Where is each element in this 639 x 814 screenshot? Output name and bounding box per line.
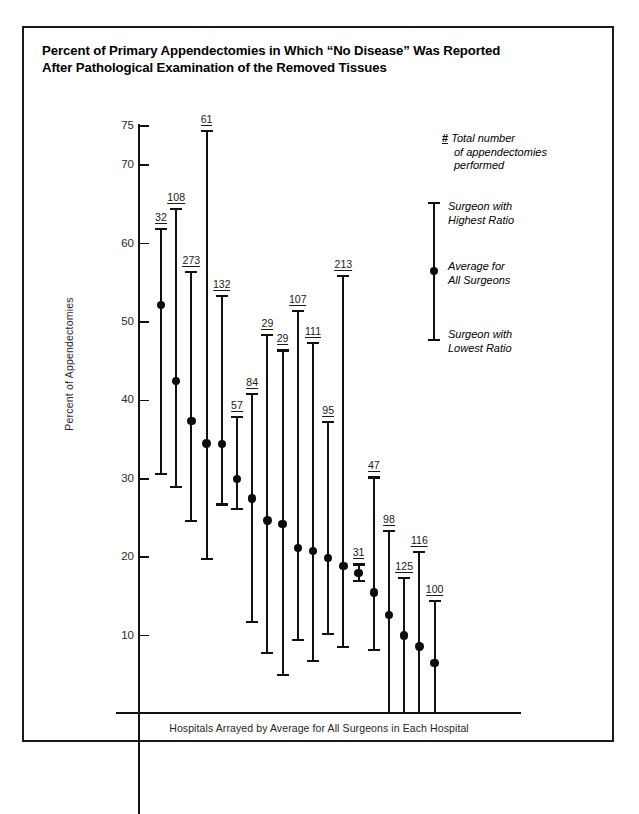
range-bar-low-cap bbox=[185, 520, 197, 522]
bar-count-label: 116 bbox=[411, 535, 428, 547]
range-bar[interactable]: 100 bbox=[428, 584, 442, 718]
range-bar-stem bbox=[403, 577, 405, 714]
range-bar-stem bbox=[373, 476, 375, 651]
legend-lowest-line-1: Surgeon with bbox=[448, 328, 512, 340]
y-axis-tick-label-text: 30 bbox=[108, 472, 134, 484]
y-axis-tick bbox=[140, 400, 149, 402]
range-bar[interactable]: 116 bbox=[412, 535, 426, 718]
range-bar-high-cap bbox=[246, 393, 258, 395]
range-bar[interactable]: 108 bbox=[169, 192, 183, 492]
bar-count-label: 125 bbox=[395, 561, 413, 573]
legend-average-line-1: Average for bbox=[448, 260, 505, 272]
range-bar-stem bbox=[282, 349, 284, 675]
average-dot bbox=[339, 562, 347, 570]
bar-count-label: 213 bbox=[335, 259, 353, 271]
range-bar[interactable]: 47 bbox=[367, 460, 381, 655]
average-dot bbox=[233, 475, 241, 483]
y-axis-line bbox=[138, 124, 140, 814]
range-bar-low-cap bbox=[170, 486, 182, 488]
range-bar-stem bbox=[327, 421, 329, 635]
bar-count-label: 95 bbox=[322, 405, 334, 417]
range-bar[interactable]: 84 bbox=[245, 377, 259, 627]
range-bar-low-cap bbox=[353, 580, 365, 582]
range-bar[interactable]: 32 bbox=[154, 212, 168, 479]
legend-average-dot bbox=[430, 267, 438, 275]
range-bar[interactable]: 61 bbox=[200, 114, 214, 564]
average-dot bbox=[278, 520, 286, 528]
average-dot bbox=[187, 417, 195, 425]
range-bar-high-cap bbox=[353, 563, 365, 565]
average-dot bbox=[172, 377, 180, 385]
range-bar-high-cap bbox=[292, 310, 304, 312]
range-bar-high-cap bbox=[413, 551, 425, 553]
range-bar[interactable]: 57 bbox=[230, 400, 244, 514]
range-bar[interactable]: 29 bbox=[276, 333, 290, 679]
average-dot bbox=[415, 642, 423, 650]
range-bar-low-cap bbox=[216, 503, 228, 505]
range-bar-high-cap bbox=[170, 208, 182, 210]
range-bar-stem bbox=[175, 208, 177, 488]
range-bar[interactable]: 111 bbox=[306, 326, 320, 667]
range-bar-low-cap bbox=[307, 660, 319, 662]
bar-count-label: 47 bbox=[368, 460, 380, 472]
range-bar-high-cap bbox=[368, 476, 380, 478]
bar-count-label: 31 bbox=[353, 547, 365, 559]
y-axis-tick bbox=[140, 243, 149, 245]
bar-count-label: 132 bbox=[213, 279, 231, 291]
range-bar[interactable]: 98 bbox=[382, 514, 396, 718]
y-axis-tick-label: 70 bbox=[108, 158, 134, 170]
range-bar-low-cap bbox=[277, 674, 289, 676]
average-dot bbox=[400, 631, 408, 639]
legend-highest-label: Surgeon with Highest Ratio bbox=[448, 200, 598, 227]
range-bar-low-cap bbox=[322, 633, 334, 635]
average-dot bbox=[430, 659, 438, 667]
range-bar[interactable]: 132 bbox=[215, 279, 229, 510]
bar-count-label: 107 bbox=[289, 294, 307, 306]
range-bar-low-cap bbox=[155, 473, 167, 475]
range-bar-low-cap bbox=[201, 558, 213, 560]
range-bar[interactable]: 125 bbox=[397, 561, 411, 718]
range-bar-stem bbox=[160, 228, 162, 475]
hash-icon: # bbox=[442, 133, 448, 144]
average-dot bbox=[157, 301, 165, 309]
range-bar-high-cap bbox=[155, 228, 167, 230]
bar-count-label: 98 bbox=[383, 514, 395, 526]
range-bar-low-cap bbox=[337, 646, 349, 648]
y-axis-tick bbox=[140, 164, 149, 166]
y-axis-tick-label-text: 20 bbox=[108, 550, 134, 562]
legend-highest-line-1: Surgeon with bbox=[448, 200, 512, 212]
y-axis-tick-label-text: 10 bbox=[108, 629, 134, 641]
y-axis-tick bbox=[140, 478, 149, 480]
range-bar-stem bbox=[388, 530, 390, 714]
range-bar-low-cap bbox=[246, 621, 258, 623]
bar-count-label: 29 bbox=[277, 333, 289, 345]
range-bar-high-cap bbox=[261, 334, 273, 336]
y-axis-label: Percent of Appendectomies bbox=[63, 279, 75, 449]
average-dot bbox=[202, 439, 210, 447]
bar-count-label: 84 bbox=[246, 377, 258, 389]
range-bar[interactable]: 31 bbox=[352, 547, 366, 586]
range-bar[interactable]: 29 bbox=[260, 318, 274, 658]
range-bar-low-cap bbox=[368, 649, 380, 651]
range-bar-stem bbox=[206, 130, 208, 560]
y-axis-tick-label: 50 bbox=[108, 315, 134, 327]
average-dot bbox=[370, 588, 378, 596]
y-axis-tick bbox=[140, 556, 149, 558]
bar-count-label: 57 bbox=[231, 400, 243, 412]
range-bar-high-cap bbox=[201, 130, 213, 132]
range-bar-high-cap bbox=[307, 342, 319, 344]
range-bar-low-cap bbox=[231, 508, 243, 510]
range-bar-low-cap bbox=[261, 652, 273, 654]
range-bar[interactable]: 95 bbox=[321, 405, 335, 639]
y-axis-tick-label: 40 bbox=[108, 393, 134, 405]
average-dot bbox=[385, 611, 393, 619]
legend-lowest-line-2: Lowest Ratio bbox=[448, 342, 512, 354]
y-axis-tick-label-text: 60 bbox=[108, 237, 134, 249]
range-bar-stem bbox=[297, 310, 299, 641]
legend-highest-line-2: Highest Ratio bbox=[448, 214, 514, 226]
y-axis-tick-label-text: 75 bbox=[108, 119, 134, 131]
range-bar[interactable]: 213 bbox=[336, 259, 350, 652]
range-bar[interactable]: 107 bbox=[291, 294, 305, 645]
range-bar[interactable]: 273 bbox=[184, 255, 198, 526]
legend-hash-entry: # Total number of appendectomies perform… bbox=[442, 132, 602, 173]
